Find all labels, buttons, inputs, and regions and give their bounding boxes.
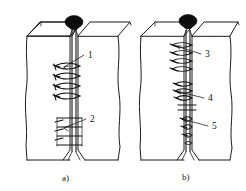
diagram-canvas: 1 2 a) [0,0,246,191]
panel-b-left-block [139,22,196,160]
callout-label-3: 3 [205,49,210,59]
panel-b-caption: b) [182,172,190,182]
panel-a-left-block [25,21,82,160]
panel-b-helix-upper [170,43,192,72]
panel-b-right-block [192,22,239,160]
panel-a-weld-node [65,16,83,31]
callout-label-5: 5 [212,121,217,131]
panel-a-caption: a) [62,173,69,183]
panel-a: 1 2 a) [25,16,131,184]
callout-label-1: 1 [88,50,93,60]
panel-b-callout-3: 3 [176,46,210,59]
panel-b-weld-node [179,15,197,30]
callout-label-4: 4 [208,93,213,103]
panel-a-callout-2: 2 [64,114,95,131]
panel-a-right-block [78,22,131,160]
welding-diagram-figure: 1 2 a) [0,0,246,191]
callout-label-2: 2 [90,114,95,124]
panel-b: 3 4 5 b) [139,15,239,183]
